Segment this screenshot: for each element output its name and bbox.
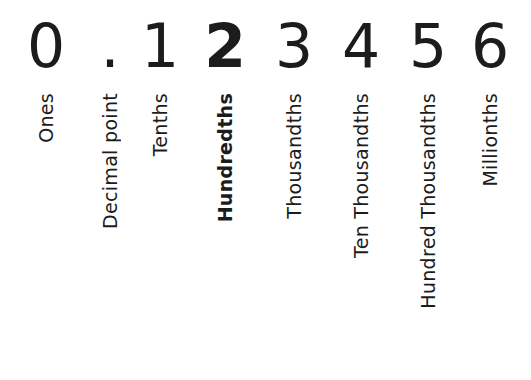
digit-ones: 0 — [16, 14, 76, 78]
label-ten-thousandths: Ten Thousandths — [351, 93, 371, 258]
label-ones: Ones — [36, 93, 56, 143]
digit-hundred-thousandths: 5 — [398, 14, 458, 78]
digit-hundredths: 2 — [195, 14, 255, 78]
digit-thousandths: 3 — [264, 14, 324, 78]
column-tenths: 1 Tenths — [130, 0, 190, 380]
digit-tenths: 1 — [130, 14, 190, 78]
column-ones: 0 Ones — [16, 0, 76, 380]
column-thousandths: 3 Thousandths — [264, 0, 324, 380]
label-tenths: Tenths — [150, 93, 170, 156]
digit-ten-thousandths: 4 — [331, 14, 391, 78]
digit-millionths: 6 — [460, 14, 520, 78]
label-decimal-point: Decimal point — [100, 93, 120, 229]
column-millionths: 6 Millionths — [460, 0, 520, 380]
column-ten-thousandths: 4 Ten Thousandths — [331, 0, 391, 380]
column-hundredths: 2 Hundredths — [195, 0, 255, 380]
label-thousandths: Thousandths — [284, 93, 304, 219]
column-hundred-thousandths: 5 Hundred Thousandths — [398, 0, 458, 380]
label-millionths: Millionths — [480, 93, 500, 187]
label-hundred-thousandths: Hundred Thousandths — [418, 93, 438, 309]
label-hundredths: Hundredths — [215, 93, 235, 222]
